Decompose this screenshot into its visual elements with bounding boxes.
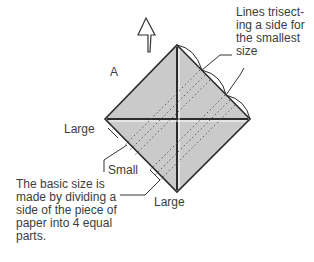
label-large-left: Large [64,123,95,136]
label-small: Small [108,164,138,177]
trisect-note: Lines trisect- ing a side for the smalle… [236,6,314,58]
up-arrow-icon [138,18,155,52]
label-large-bottom: Large [154,196,185,209]
basic-size-note: The basic size is made by dividing a sid… [16,178,136,243]
label-a: A [110,66,118,79]
